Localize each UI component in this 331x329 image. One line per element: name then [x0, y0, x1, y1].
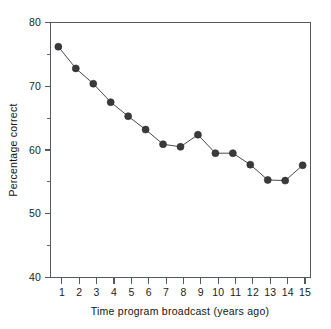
data-point [142, 126, 149, 133]
data-point [177, 143, 184, 150]
line-chart: 80 70 60 50 40 1 2 3 [0, 0, 331, 329]
data-point [160, 141, 167, 148]
x-tick-label-5: 5 [128, 286, 134, 298]
y-tick-label-80: 80 [29, 16, 41, 28]
x-tick-label-15: 15 [299, 286, 311, 298]
x-tick-label-13: 13 [264, 286, 276, 298]
chart-container: 80 70 60 50 40 1 2 3 [0, 0, 331, 329]
data-point [229, 150, 236, 157]
data-point [194, 131, 201, 138]
data-point [107, 99, 114, 106]
y-tick-label-50: 50 [29, 207, 41, 219]
chart-background [0, 0, 331, 329]
data-point [282, 177, 289, 184]
x-tick-label-1: 1 [59, 286, 65, 298]
y-tick-label-70: 70 [29, 80, 41, 92]
x-tick-label-6: 6 [146, 286, 152, 298]
x-tick-label-3: 3 [94, 286, 100, 298]
x-tick-label-14: 14 [282, 286, 294, 298]
y-tick-label-40: 40 [29, 271, 41, 283]
x-tick-label-2: 2 [76, 286, 82, 298]
x-tick-label-4: 4 [111, 286, 117, 298]
data-point [299, 162, 306, 169]
x-axis-title: Time program broadcast (years ago) [91, 305, 270, 317]
y-tick-label-60: 60 [29, 144, 41, 156]
x-tick-label-8: 8 [180, 286, 186, 298]
x-tick-label-10: 10 [212, 286, 224, 298]
data-point [90, 80, 97, 87]
x-tick-label-9: 9 [198, 286, 204, 298]
data-point [264, 176, 271, 183]
data-point [72, 65, 79, 72]
data-point [125, 113, 132, 120]
data-point [212, 150, 219, 157]
data-point [55, 43, 62, 50]
x-tick-label-7: 7 [163, 286, 169, 298]
x-tick-label-11: 11 [230, 286, 241, 298]
x-axis-tick-labels: 1 2 3 4 5 6 7 8 9 10 11 12 13 14 15 [59, 286, 311, 298]
data-point [247, 161, 254, 168]
y-axis-title: Percentage correct [7, 103, 19, 196]
x-tick-label-12: 12 [247, 286, 259, 298]
